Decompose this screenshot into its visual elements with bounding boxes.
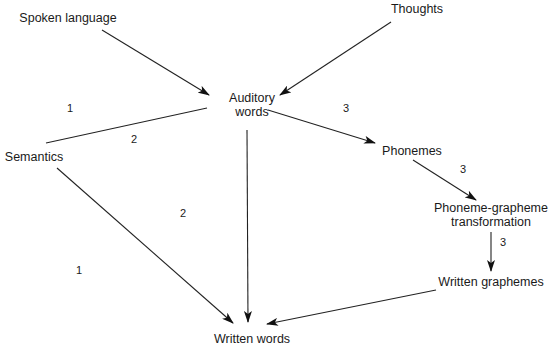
edge-graphemes-to-written-words — [267, 290, 436, 324]
node-auditory-words-line2: words — [234, 105, 268, 119]
node-phonemes: Phonemes — [382, 144, 442, 158]
reading-routes-diagram: Spoken language Thoughts Auditory words … — [0, 0, 548, 349]
edge-semantics-to-written-words — [57, 168, 233, 323]
node-spoken-language: Spoken language — [19, 11, 116, 25]
node-auditory-words-line1: Auditory — [229, 91, 276, 105]
route-label: 3 — [460, 163, 466, 175]
node-pgt-line2: transformation — [451, 215, 531, 229]
route-label: 3 — [343, 102, 349, 114]
route-label: 2 — [180, 207, 186, 219]
edge-auditory-to-written-words — [247, 130, 248, 322]
edge-phonemes-to-pgt — [413, 160, 476, 200]
node-pgt-line1: Phoneme-grapheme — [434, 201, 548, 215]
route-label: 3 — [500, 236, 506, 248]
node-thoughts: Thoughts — [391, 2, 443, 16]
edge-thoughts-to-auditory — [280, 22, 391, 95]
edge-auditory-to-phonemes — [268, 110, 375, 143]
node-written-graphemes: Written graphemes — [438, 275, 543, 289]
route-label: 1 — [67, 102, 73, 114]
node-written-words: Written words — [214, 332, 290, 346]
route-label: 1 — [76, 264, 82, 276]
node-semantics: Semantics — [5, 150, 63, 164]
route-label: 2 — [131, 133, 137, 145]
edge-spoken-to-auditory — [102, 30, 209, 95]
